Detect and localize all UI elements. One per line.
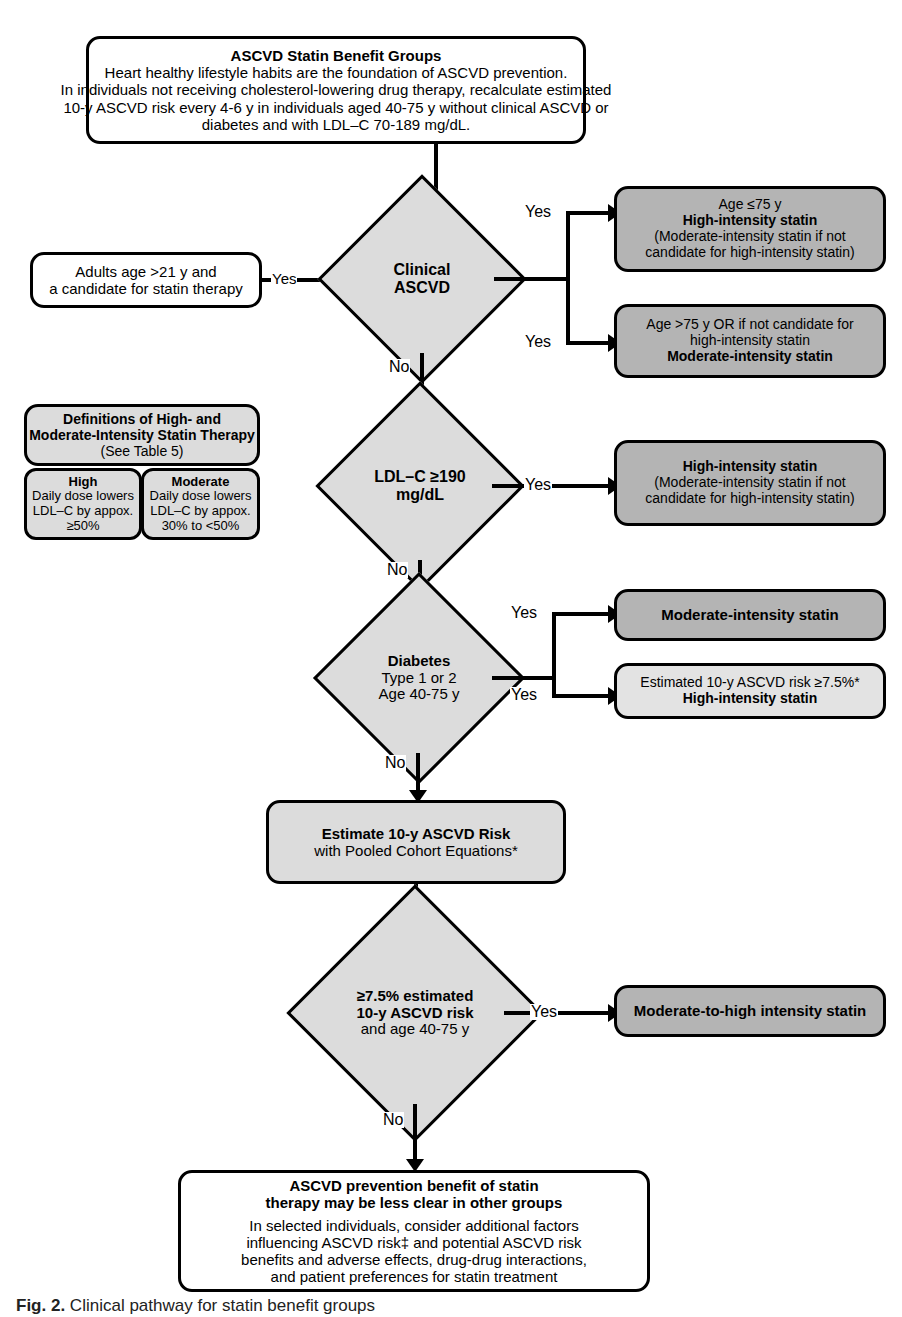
outcome-ldl-high-intensity-line-1: High-intensity statin	[683, 459, 818, 475]
final-box-line-1: In selected individuals, consider additi…	[249, 1217, 578, 1234]
connector-risk-yes	[504, 1011, 614, 1015]
definitions-cell-moderate: Moderate Daily dose lowers LDL–C by appo…	[141, 468, 260, 540]
final-box-title-line-2: therapy may be less clear in other group…	[266, 1194, 563, 1211]
top-box-line-4: diabetes and with LDL–C 70-189 mg/dL.	[202, 116, 471, 133]
top-summary-box: ASCVD Statin Benefit Groups Heart health…	[86, 36, 586, 144]
definitions-cell-moderate-line-2: LDL–C by appox.	[150, 504, 250, 519]
decision-ldl-c-190: LDL–C ≥190 mg/dL	[346, 412, 494, 560]
figure-caption-text: Clinical pathway for statin benefit grou…	[70, 1296, 375, 1315]
outcome-diabetes-moderate: Moderate-intensity statin	[614, 589, 886, 641]
top-box-line-2: In individuals not receiving cholesterol…	[61, 81, 612, 98]
decision-diabetes-line-1: Diabetes	[379, 653, 460, 670]
decision-risk-7-5-text: ≥7.5% estimated 10-y ASCVD risk and age …	[357, 988, 474, 1039]
outcome-diabetes-risk-high-line-1: Estimated 10-y ASCVD risk ≥7.5%*	[640, 675, 859, 691]
edge-label-clinical-yes-bottom: Yes	[524, 334, 552, 350]
decision-diabetes: Diabetes Type 1 or 2 Age 40-75 y	[344, 603, 494, 753]
entry-box-line-1: Adults age >21 y and	[75, 263, 216, 280]
connector-diabetes-yes-bottom	[552, 694, 614, 698]
entry-box: Adults age >21 y and a candidate for sta…	[30, 252, 262, 308]
final-outcome-box: ASCVD prevention benefit of statin thera…	[178, 1170, 650, 1292]
definitions-cell-moderate-line-1: Daily dose lowers	[150, 489, 252, 504]
decision-diabetes-line-3: Age 40-75 y	[379, 686, 460, 703]
final-box-line-3: benefits and adverse effects, drug-drug …	[241, 1251, 587, 1268]
decision-ldl-c-190-text: LDL–C ≥190 mg/dL	[374, 468, 465, 504]
connector-ldl-yes	[492, 484, 614, 488]
top-box-line-1: Heart healthy lifestyle habits are the f…	[105, 64, 568, 81]
definitions-cell-high-line-3: ≥50%	[66, 519, 99, 534]
outcome-moderate-to-high: Moderate-to-high intensity statin	[614, 985, 886, 1037]
definitions-cell-high-line-2: LDL–C by appox.	[33, 504, 133, 519]
definitions-cell-high: High Daily dose lowers LDL–C by appox. ≥…	[24, 468, 142, 540]
edge-label-risk-no: No	[382, 1112, 404, 1128]
connector-clinical-yes-top	[566, 211, 614, 215]
edge-label-ldl-yes: Yes	[524, 477, 552, 493]
entry-box-line-2: a candidate for statin therapy	[49, 280, 242, 297]
edge-label-clinical-no: No	[388, 359, 410, 375]
definitions-cell-moderate-header: Moderate	[172, 475, 230, 490]
connector-diabetes-stub	[492, 676, 554, 680]
outcome-ascvd-age-le75-line-3: (Moderate-intensity statin if not	[654, 229, 845, 245]
outcome-diabetes-moderate-line-1: Moderate-intensity statin	[661, 606, 839, 623]
connector-clinical-yes-bottom	[566, 341, 614, 345]
decision-risk-7-5-line-2: 10-y ASCVD risk	[357, 1005, 474, 1022]
edge-label-entry-yes: Yes	[271, 271, 297, 286]
outcome-ascvd-age-le75-line-2: High-intensity statin	[683, 213, 818, 229]
decision-risk-7-5: ≥7.5% estimated 10-y ASCVD risk and age …	[324, 922, 506, 1104]
connector-risk-no	[413, 1104, 417, 1166]
outcome-ascvd-age-gt75-line-2: high-intensity statin	[690, 333, 810, 349]
edge-label-risk-yes: Yes	[530, 1004, 558, 1020]
outcome-moderate-to-high-line-1: Moderate-to-high intensity statin	[634, 1002, 867, 1019]
estimate-risk-box: Estimate 10-y ASCVD Risk with Pooled Coh…	[266, 800, 566, 884]
definitions-header-box: Definitions of High- and Moderate-Intens…	[24, 404, 260, 466]
edge-label-clinical-yes-top: Yes	[524, 204, 552, 220]
outcome-ascvd-age-gt75-line-3: Moderate-intensity statin	[667, 349, 833, 365]
final-box-title-line-1: ASCVD prevention benefit of statin	[289, 1177, 538, 1194]
edge-label-diabetes-no: No	[384, 755, 406, 771]
decision-risk-7-5-line-1: ≥7.5% estimated	[357, 988, 474, 1005]
outcome-diabetes-risk-high-line-2: High-intensity statin	[683, 691, 818, 707]
edge-label-diabetes-yes-top: Yes	[510, 605, 538, 621]
definitions-cell-moderate-line-3: 30% to <50%	[162, 519, 240, 534]
decision-clinical-ascvd-text: Clinical ASCVD	[394, 261, 451, 297]
definitions-title-line-2: Moderate-Intensity Statin Therapy	[29, 427, 255, 443]
decision-clinical-ascvd-line-2: ASCVD	[394, 279, 451, 297]
final-box-line-2: influencing ASCVD risk‡ and potential AS…	[246, 1234, 581, 1251]
definitions-cell-high-header: High	[69, 475, 98, 490]
outcome-ldl-high-intensity-line-2: (Moderate-intensity statin if not	[654, 475, 845, 491]
final-box-line-4: and patient preferences for statin treat…	[271, 1268, 558, 1285]
estimate-risk-box-line-1: Estimate 10-y ASCVD Risk	[322, 825, 511, 842]
outcome-ascvd-age-le75: Age ≤75 y High-intensity statin (Moderat…	[614, 186, 886, 272]
outcome-diabetes-risk-high: Estimated 10-y ASCVD risk ≥7.5%* High-in…	[614, 663, 886, 719]
outcome-ascvd-age-le75-line-1: Age ≤75 y	[719, 197, 782, 213]
decision-diabetes-text: Diabetes Type 1 or 2 Age 40-75 y	[379, 653, 460, 704]
edge-label-diabetes-yes-bottom: Yes	[510, 687, 538, 703]
definitions-subtitle: (See Table 5)	[100, 443, 183, 459]
connector-clinical-stub	[494, 277, 568, 281]
figure-caption: Fig. 2. Clinical pathway for statin bene…	[16, 1296, 375, 1316]
decision-clinical-ascvd-line-1: Clinical	[394, 261, 451, 279]
decision-ldl-c-190-line-1: LDL–C ≥190	[374, 468, 465, 486]
estimate-risk-box-line-2: with Pooled Cohort Equations*	[314, 842, 517, 859]
top-box-title: ASCVD Statin Benefit Groups	[231, 47, 442, 64]
outcome-ascvd-age-le75-line-4: candidate for high-intensity statin)	[645, 245, 854, 261]
flowchart-canvas: ASCVD Statin Benefit Groups Heart health…	[0, 0, 902, 1317]
decision-diabetes-line-2: Type 1 or 2	[379, 670, 460, 687]
outcome-ascvd-age-gt75-line-1: Age >75 y OR if not candidate for	[646, 317, 853, 333]
connector-diabetes-yes-top	[552, 612, 614, 616]
figure-caption-label: Fig. 2.	[16, 1296, 65, 1315]
outcome-ascvd-age-gt75: Age >75 y OR if not candidate for high-i…	[614, 304, 886, 378]
decision-ldl-c-190-line-2: mg/dL	[374, 486, 465, 504]
decision-clinical-ascvd: Clinical ASCVD	[348, 205, 496, 353]
outcome-ldl-high-intensity-line-3: candidate for high-intensity statin)	[645, 491, 854, 507]
top-box-line-3: 10-y ASCVD risk every 4-6 y in individua…	[63, 99, 608, 116]
edge-label-ldl-no: No	[386, 562, 408, 578]
definitions-cell-high-line-1: Daily dose lowers	[32, 489, 134, 504]
decision-risk-7-5-line-3: and age 40-75 y	[357, 1021, 474, 1038]
connector-diabetes-bus	[552, 612, 556, 698]
definitions-title-line-1: Definitions of High- and	[63, 411, 221, 427]
outcome-ldl-high-intensity: High-intensity statin (Moderate-intensit…	[614, 440, 886, 526]
connector-clinical-bus	[566, 211, 570, 345]
